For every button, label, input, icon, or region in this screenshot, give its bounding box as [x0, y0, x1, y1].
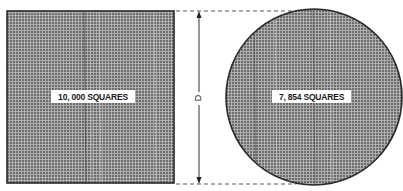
circle-label-text: 7, 854 SQUARES	[279, 92, 345, 102]
square-label: 10, 000 SQUARES	[51, 90, 135, 103]
area-comparison-diagram: 10, 000 SQUARES D 7, 854 SQUARES	[0, 0, 403, 191]
circle-label: 7, 854 SQUARES	[272, 90, 351, 103]
square-label-text: 10, 000 SQUARES	[58, 92, 128, 102]
arrow-up-icon	[197, 11, 202, 18]
arrow-down-icon	[197, 177, 202, 184]
dimension-line: D	[193, 11, 203, 184]
dimension-label: D	[193, 94, 203, 101]
